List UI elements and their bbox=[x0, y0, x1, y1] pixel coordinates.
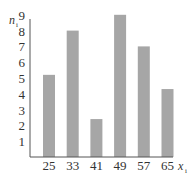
y-tick-label: 5 bbox=[19, 71, 26, 86]
x-tick-label: 65 bbox=[161, 158, 174, 173]
y-tick-label: 9 bbox=[19, 8, 26, 23]
bar bbox=[90, 119, 102, 157]
y-tick-label: 7 bbox=[19, 39, 26, 54]
y-tick-label: 6 bbox=[19, 55, 26, 70]
y-tick-label: 3 bbox=[19, 103, 26, 118]
bar-chart: 253341495765123456789nixi bbox=[0, 0, 196, 176]
x-axis-subscript: i bbox=[185, 167, 187, 175]
y-axis-label: n bbox=[9, 13, 15, 27]
x-tick-label: 25 bbox=[43, 158, 56, 173]
bar bbox=[67, 31, 79, 157]
y-tick-label: 1 bbox=[19, 134, 26, 149]
y-tick-label: 2 bbox=[19, 118, 26, 133]
bar bbox=[43, 75, 55, 157]
y-axis-subscript: i bbox=[16, 21, 18, 29]
y-tick-label: 4 bbox=[19, 87, 26, 102]
x-axis-label: x bbox=[177, 159, 184, 173]
chart-canvas: 253341495765123456789nixi bbox=[0, 0, 196, 176]
bar bbox=[162, 89, 174, 157]
y-tick-label: 8 bbox=[19, 24, 26, 39]
bar bbox=[114, 15, 126, 157]
x-tick-label: 33 bbox=[66, 158, 79, 173]
x-tick-label: 41 bbox=[90, 158, 103, 173]
bar bbox=[138, 46, 150, 157]
x-tick-label: 57 bbox=[137, 158, 151, 173]
x-tick-label: 49 bbox=[114, 158, 127, 173]
